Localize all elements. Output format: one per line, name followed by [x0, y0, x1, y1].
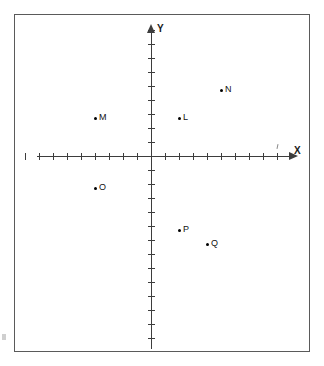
y-axis-tick	[148, 310, 155, 311]
x-axis-tick	[193, 153, 194, 160]
x-axis-tick	[179, 153, 180, 160]
data-point: L	[178, 114, 188, 123]
y-axis-tick	[148, 324, 155, 325]
x-axis-tick	[39, 153, 40, 160]
x-axis-tick	[81, 153, 82, 160]
point-label: M	[99, 113, 107, 122]
y-axis-tick	[148, 254, 155, 255]
y-axis-tick	[148, 212, 155, 213]
stray-tick-mark	[276, 144, 278, 149]
y-axis-label: Y	[157, 24, 164, 34]
y-axis-tick	[148, 128, 155, 129]
x-axis-tick	[165, 153, 166, 160]
point-label: O	[99, 183, 106, 192]
y-axis-tick	[148, 282, 155, 283]
y-axis-tick	[148, 226, 155, 227]
scan-artifact-speck-left	[2, 334, 6, 340]
point-marker-dot	[178, 117, 181, 120]
y-axis-tick	[148, 86, 155, 87]
point-label: N	[225, 85, 232, 94]
y-axis-tick	[148, 142, 155, 143]
x-axis-tick	[235, 153, 236, 160]
data-point: N	[220, 86, 232, 95]
x-axis-tick	[249, 153, 250, 160]
point-label: P	[183, 225, 189, 234]
y-axis-arrowhead	[147, 24, 155, 33]
x-axis-line	[37, 156, 289, 157]
plot-area: X Y MLNOPQ	[15, 15, 311, 353]
y-axis-tick	[148, 268, 155, 269]
coordinate-plane-figure: X Y MLNOPQ	[0, 0, 324, 366]
x-axis-label: X	[294, 146, 301, 156]
y-axis-tick	[148, 44, 155, 45]
y-axis-tick	[148, 338, 155, 339]
x-axis-tick	[53, 153, 54, 160]
y-axis-tick	[148, 30, 155, 31]
data-point: M	[94, 114, 107, 123]
x-axis-tick	[95, 153, 96, 160]
point-marker-dot	[220, 89, 223, 92]
y-axis-tick	[148, 114, 155, 115]
x-axis-tick	[109, 153, 110, 160]
point-marker-dot	[178, 229, 181, 232]
y-axis-tick	[148, 296, 155, 297]
data-point: Q	[206, 240, 218, 249]
point-label: Q	[211, 239, 218, 248]
y-axis-tick	[148, 58, 155, 59]
x-axis-tick	[137, 153, 138, 160]
point-marker-dot	[206, 243, 209, 246]
x-axis-tick	[123, 153, 124, 160]
y-axis-tick	[148, 184, 155, 185]
point-marker-dot	[94, 117, 97, 120]
x-axis-tick	[277, 153, 278, 160]
point-label: L	[183, 113, 188, 122]
y-axis-tick	[148, 72, 155, 73]
x-axis-tick	[207, 153, 208, 160]
x-axis-tick	[25, 153, 26, 160]
x-axis-tick	[221, 153, 222, 160]
y-axis-tick	[148, 100, 155, 101]
y-axis-tick	[148, 240, 155, 241]
figure-border: X Y MLNOPQ	[14, 14, 310, 352]
y-axis-tick	[148, 170, 155, 171]
y-axis-tick	[148, 198, 155, 199]
point-marker-dot	[94, 187, 97, 190]
data-point: O	[94, 184, 106, 193]
x-axis-tick	[263, 153, 264, 160]
x-axis-tick	[67, 153, 68, 160]
y-axis-line	[151, 33, 152, 349]
data-point: P	[178, 226, 189, 235]
